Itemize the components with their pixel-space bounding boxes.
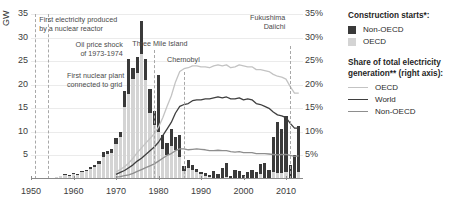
nuclear-construction-chart: GW 3530252015105 35%30%25%20%15%10%5% 19… bbox=[0, 0, 459, 208]
x-axis bbox=[31, 178, 303, 179]
event-label-first-plant-grid: First nuclear plantconnected to grid bbox=[67, 72, 124, 90]
line-non-oecd bbox=[116, 149, 299, 177]
line-swatch-world-icon bbox=[348, 99, 368, 100]
legend-item-oecd-bar: OECD bbox=[348, 37, 459, 46]
legend-item-non-oecd-line: Non-OECD bbox=[348, 107, 459, 116]
line-world bbox=[116, 97, 299, 174]
y-tick-label-right: 5% bbox=[305, 149, 339, 159]
event-line-fukushima-daiichi bbox=[290, 46, 291, 179]
legend-item-non-oecd-bar: Non-OECD bbox=[348, 25, 459, 34]
legend-item-world-line: World bbox=[348, 95, 459, 104]
legend-item-oecd-line: OECD bbox=[348, 83, 459, 92]
y-tick-label-right: 35% bbox=[305, 8, 339, 18]
line-swatch-oecd-icon bbox=[348, 87, 368, 88]
swatch-oecd-icon bbox=[348, 38, 356, 46]
legend-label-non-oecd-line: Non-OECD bbox=[375, 107, 415, 116]
event-line-first-plant-grid bbox=[48, 14, 49, 179]
event-label-fukushima-daiichi: FukushimaDaiichi bbox=[0, 14, 285, 32]
x-tick-label: 1970 bbox=[106, 186, 126, 196]
legend-label-non-oecd-bar: Non-OECD bbox=[363, 25, 403, 34]
x-tick-label: 1990 bbox=[191, 186, 211, 196]
x-tick bbox=[286, 176, 287, 180]
y-tick-label-left: 20 bbox=[4, 79, 28, 89]
y-tick-label-right: 25% bbox=[305, 55, 339, 65]
x-tick-label: 1950 bbox=[21, 186, 41, 196]
legend-label-oecd-line: OECD bbox=[375, 83, 398, 92]
chart-area: GW 3530252015105 35%30%25%20%15%10%5% 19… bbox=[0, 0, 340, 208]
x-tick-label: 2000 bbox=[233, 186, 253, 196]
line-swatch-non-oecd-icon bbox=[348, 111, 368, 112]
legend-label-oecd-bar: OECD bbox=[363, 37, 386, 46]
x-tick bbox=[31, 176, 32, 180]
event-label-chernobyl: Chernobyl bbox=[167, 56, 200, 65]
y-tick-label-right: 15% bbox=[305, 102, 339, 112]
y-tick-label-left: 5 bbox=[4, 149, 28, 159]
x-tick-label: 1960 bbox=[63, 186, 83, 196]
x-tick bbox=[159, 176, 160, 180]
x-tick bbox=[74, 176, 75, 180]
x-tick-label: 1980 bbox=[148, 186, 168, 196]
y-tick-label-right: 20% bbox=[305, 79, 339, 89]
event-label-three-mile-island: Three Mile Island bbox=[132, 40, 187, 49]
event-line-first-electricity bbox=[35, 14, 36, 179]
y-tick-label-left: 10 bbox=[4, 126, 28, 136]
legend: Construction starts*: Non-OECD OECD Shar… bbox=[348, 11, 459, 119]
x-tick bbox=[201, 176, 202, 180]
legend-spacer bbox=[348, 49, 459, 58]
y-tick-label-right: 10% bbox=[305, 126, 339, 136]
event-label-oil-price-shock: Oil price shockof 1973-1974 bbox=[0, 41, 123, 59]
legend-title-share: Share of total electricitygeneration** (… bbox=[348, 58, 459, 79]
y-tick-label-right: 30% bbox=[305, 32, 339, 42]
x-tick-label: 2010 bbox=[276, 186, 296, 196]
x-tick bbox=[116, 176, 117, 180]
event-line-three-mile-island bbox=[154, 50, 155, 179]
legend-label-world-line: World bbox=[375, 95, 396, 104]
swatch-non-oecd-icon bbox=[348, 26, 356, 34]
x-tick bbox=[244, 176, 245, 180]
y-tick-label-left: 15 bbox=[4, 102, 28, 112]
event-line-chernobyl bbox=[184, 72, 185, 179]
legend-title-construction: Construction starts*: bbox=[348, 11, 459, 21]
